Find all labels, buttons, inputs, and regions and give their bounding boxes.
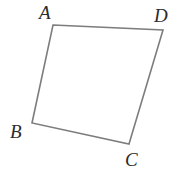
vertex-label-c: C	[125, 150, 138, 169]
vertex-label-a: A	[39, 3, 51, 22]
geometry-figure: A D B C	[0, 0, 185, 176]
vertex-label-d: D	[154, 6, 168, 25]
vertex-label-b: B	[10, 122, 22, 141]
quadrilateral-drawing	[0, 0, 185, 176]
